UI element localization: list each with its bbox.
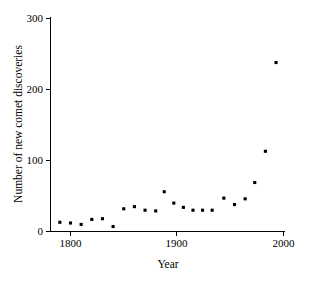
data-point	[182, 206, 185, 209]
x-tick-label-2000: 2000	[273, 237, 296, 249]
data-point	[264, 150, 267, 153]
data-point	[112, 225, 115, 228]
y-tick-label-200: 200	[27, 83, 44, 95]
data-point	[233, 203, 236, 206]
x-tick-label-1900: 1900	[166, 237, 189, 249]
x-tick-label-1800: 1800	[60, 237, 83, 249]
y-axis-ticks: 0 100 200 300	[27, 12, 51, 237]
data-point	[211, 209, 214, 212]
data-point	[274, 61, 277, 64]
data-point	[58, 221, 61, 224]
data-point	[191, 209, 194, 212]
data-point	[253, 181, 256, 184]
y-tick-label-300: 300	[27, 12, 44, 24]
data-point	[133, 205, 136, 208]
data-point	[90, 218, 93, 221]
y-axis-title: Number of new comet discoveries	[12, 45, 24, 203]
data-point	[69, 221, 72, 224]
data-point	[244, 197, 247, 200]
data-point	[154, 209, 157, 212]
data-point	[80, 223, 83, 226]
data-point	[201, 209, 204, 212]
y-tick-label-100: 100	[27, 154, 44, 166]
data-point	[122, 207, 125, 210]
data-point	[163, 190, 166, 193]
data-point	[144, 209, 147, 212]
data-point-group	[58, 61, 277, 228]
x-axis-ticks: 1800 1900 2000	[60, 232, 296, 250]
y-tick-label-0: 0	[38, 225, 44, 237]
data-point	[172, 202, 175, 205]
comet-discoveries-chart: 0 100 200 300 1800 1900 2000 Year Number…	[0, 0, 313, 282]
data-point	[101, 217, 104, 220]
scatter-plot-canvas: 0 100 200 300 1800 1900 2000 Year Number…	[0, 0, 313, 282]
x-axis-title: Year	[157, 258, 178, 270]
data-point	[222, 197, 225, 200]
